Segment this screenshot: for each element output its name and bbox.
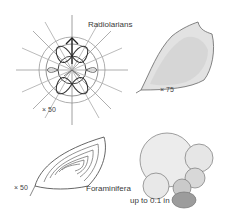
radiolarian-cone-drawing bbox=[136, 22, 214, 93]
radiolarians-label: Radiolarians bbox=[88, 20, 132, 29]
illustration-canvas: Radiolarians × 50 × 75 × 50 Foraminifera… bbox=[0, 0, 228, 212]
radiolarian-sphere-drawing bbox=[16, 15, 128, 125]
foraminifera-fan-scale: × 50 bbox=[14, 183, 28, 192]
plankton-drawings bbox=[0, 0, 228, 212]
size-note-label: up to 0.1 in bbox=[130, 196, 170, 205]
foraminifera-label: Foraminifera bbox=[86, 184, 131, 193]
radiolarian-cone-scale: × 75 bbox=[160, 85, 174, 94]
radiolarian-sphere-scale: × 50 bbox=[42, 105, 56, 114]
